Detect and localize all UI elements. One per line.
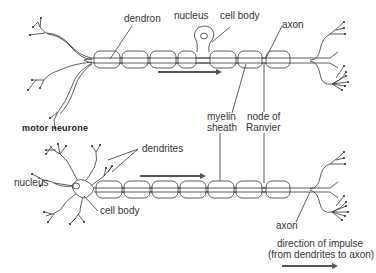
- motor-axon-terminals: [310, 22, 348, 90]
- legend-line-2: (from dendrites to axon): [268, 249, 374, 260]
- label-dendrites: dendrites: [142, 143, 183, 154]
- label-node-of-ranvier-1: node of: [247, 111, 281, 122]
- motor-myelin-sheath: [94, 51, 290, 68]
- sensory-axon-terminals: [310, 152, 348, 220]
- motor-impulse-arrow-icon: [158, 69, 222, 75]
- right-arrow-icon: [282, 263, 338, 269]
- motor-neurone: dendron nucleus cell body axon myelin sh…: [22, 10, 349, 133]
- legend-line-1: direction of impulse: [277, 238, 364, 249]
- label-nucleus-top: nucleus: [174, 10, 208, 21]
- label-axon-top: axon: [282, 19, 304, 30]
- label-node-of-ranvier-2: Ranvier: [246, 122, 281, 133]
- label-nucleus-bottom: nucleus: [14, 177, 48, 188]
- neurone-diagram: dendron nucleus cell body axon myelin sh…: [0, 0, 376, 273]
- sensory-neurone: dendrites nucleus cell body axon: [14, 133, 349, 231]
- motor-cell-body: [194, 26, 213, 52]
- label-dendron: dendron: [124, 13, 161, 24]
- motor-dendrite-tree: [28, 18, 92, 128]
- impulse-direction-legend: direction of impulse (from dendrites to …: [268, 238, 374, 269]
- label-myelin-sheath-2: sheath: [207, 122, 237, 133]
- motor-neurone-title: motor neurone: [22, 123, 88, 133]
- label-cell-body-bottom: cell body: [100, 205, 139, 216]
- label-axon-bottom: axon: [276, 220, 298, 231]
- label-myelin-sheath-1: myelin: [207, 111, 236, 122]
- sensory-impulse-arrow-icon: [140, 173, 206, 179]
- sensory-myelin-sheath: [96, 181, 290, 198]
- label-cell-body-top: cell body: [220, 10, 259, 21]
